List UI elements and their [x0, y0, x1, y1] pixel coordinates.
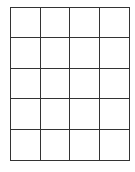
grid-cell-r5-c3 [70, 130, 100, 160]
grid-cell-r5-c2 [41, 130, 71, 160]
grid-cell-r2-c2 [41, 38, 71, 68]
grid-cell-r2-c1 [11, 38, 41, 68]
grid-cell-r5-c4 [100, 130, 130, 160]
grid-cell-r3-c2 [41, 69, 71, 99]
grid-cell-r2-c3 [70, 38, 100, 68]
grid-cell-r3-c4 [100, 69, 130, 99]
empty-grid-table [10, 7, 130, 161]
grid-cell-r4-c2 [41, 99, 71, 129]
grid-cell-r3-c3 [70, 69, 100, 99]
grid-cell-r4-c1 [11, 99, 41, 129]
grid-cell-r4-c4 [100, 99, 130, 129]
grid-cell-r1-c4 [100, 8, 130, 38]
grid-cell-r3-c1 [11, 69, 41, 99]
grid-cell-r1-c1 [11, 8, 41, 38]
grid-cell-r1-c2 [41, 8, 71, 38]
grid-cell-r5-c1 [11, 130, 41, 160]
grid-cell-r1-c3 [70, 8, 100, 38]
grid-cell-r4-c3 [70, 99, 100, 129]
grid-cell-r2-c4 [100, 38, 130, 68]
